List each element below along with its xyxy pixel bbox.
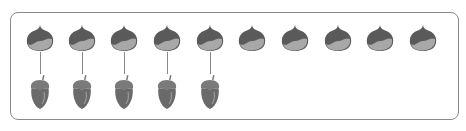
match-line: [40, 52, 41, 74]
chestnut-icon: [237, 23, 267, 53]
match-line: [210, 52, 211, 74]
chestnut-icon: [109, 23, 139, 53]
match-line: [167, 52, 168, 74]
chestnut-icon: [365, 23, 395, 53]
chestnut-icon: [25, 23, 55, 53]
chestnut-icon: [195, 23, 225, 53]
match-line: [82, 52, 83, 74]
chestnut-icon: [152, 23, 182, 53]
chestnut-icon: [67, 23, 97, 53]
match-line: [124, 52, 125, 74]
chestnut-icon: [280, 23, 310, 53]
acorn-icon: [112, 74, 136, 110]
acorn-icon: [28, 74, 52, 110]
acorn-icon: [70, 74, 94, 110]
acorn-icon: [198, 74, 222, 110]
chestnut-icon: [323, 23, 353, 53]
chestnut-icon: [408, 23, 438, 53]
acorn-icon: [155, 74, 179, 110]
